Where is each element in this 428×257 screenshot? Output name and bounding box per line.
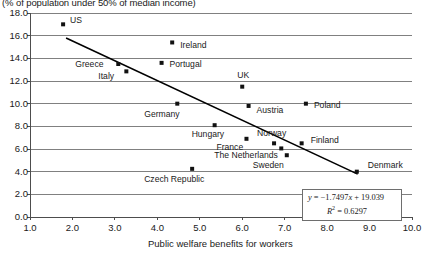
x-axis-tick-label: 9.0 [355,222,385,233]
x-axis-tick-label: 8.0 [312,222,342,233]
y-axis-tick-label: 4.0 [0,166,28,177]
data-point-label: Ireland [180,40,206,50]
data-point-label: Greece [75,59,103,69]
data-point-marker[interactable] [213,123,217,127]
y-axis-tick-label: 14.0 [0,52,28,63]
data-point-label: Denmark [368,160,403,170]
data-point-marker[interactable] [61,22,65,26]
y-axis-tick-label: 16.0 [0,30,28,41]
y-axis-tick-label: 10.0 [0,98,28,109]
data-point-marker[interactable] [300,141,304,145]
x-axis-tick-label: 3.0 [100,222,130,233]
y-axis-tick-label: 8.0 [0,120,28,131]
data-point-marker[interactable] [279,146,283,150]
data-point-label: UK [237,70,249,80]
data-point-marker[interactable] [355,170,359,174]
data-point-label: Czech Republic [144,174,204,184]
data-point-label: The Netherlands [214,150,278,160]
trendline-equation-box: y = −1.7497x + 19.039 R2 = 0.6297 [302,189,402,221]
data-point-label: Finland [311,135,339,145]
data-point-label: Austria [257,105,284,115]
x-axis-tick-label: 7.0 [270,222,300,233]
data-point-marker[interactable] [247,104,251,108]
data-point-marker[interactable] [285,153,289,157]
x-axis-tick-label: 5.0 [185,222,215,233]
data-point-marker[interactable] [190,167,194,171]
y-axis-tick-label: 6.0 [0,143,28,154]
data-point-label: Portugal [170,59,202,69]
data-point-marker[interactable] [304,102,308,106]
x-axis-tick-label: 10.0 [397,222,427,233]
data-point-marker[interactable] [272,141,276,145]
chart-container: (% of population under 50% of median inc… [0,0,428,257]
data-point-label: Poland [314,100,341,110]
data-point-label: Sweden [253,160,284,170]
data-point-marker[interactable] [244,137,248,141]
x-axis-tick-label: 1.0 [15,222,45,233]
x-axis-tick-label: 2.0 [57,222,87,233]
data-point-label: Hungary [192,129,224,139]
y-axis-tick-label: 2.0 [0,188,28,199]
x-axis-tick-label: 6.0 [227,222,257,233]
data-point-label: Norway [257,128,286,138]
data-point-label: Italy [98,71,114,81]
trendline-equation: y = −1.7497x + 19.039 [306,192,398,203]
data-point-label: Germany [144,109,179,119]
y-axis-tick-label: 12.0 [0,75,28,86]
data-point-marker[interactable] [170,40,174,44]
data-point-marker[interactable] [116,62,120,66]
y-axis-tick-label: 0.0 [0,211,28,222]
trendline-r-squared: R2 = 0.6297 [306,203,398,217]
data-point-marker[interactable] [124,69,128,73]
data-point-marker[interactable] [160,61,164,65]
data-point-marker[interactable] [240,85,244,89]
data-point-label: US [70,15,82,25]
x-axis-tick-label: 4.0 [142,222,172,233]
y-axis-tick-label: 18.0 [0,7,28,18]
data-point-marker[interactable] [175,102,179,106]
x-axis-title: Public welfare benefits for workers [148,238,293,249]
